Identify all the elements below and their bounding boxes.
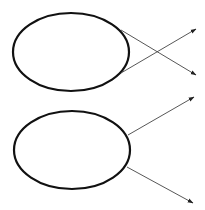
bottom-arrow-down (127, 167, 193, 203)
diagram-canvas (0, 0, 205, 210)
top-ellipse (13, 13, 129, 91)
bottom-arrow-up (128, 97, 194, 135)
ellipses-group (13, 13, 130, 189)
bottom-ellipse (14, 111, 130, 189)
top-cross-arrow-2 (121, 29, 196, 73)
arrows-group (121, 29, 196, 203)
top-cross-arrow-1 (121, 30, 196, 75)
